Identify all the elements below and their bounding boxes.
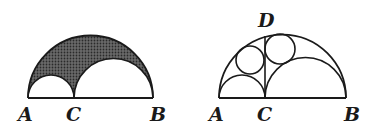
left-figure: A C B [16, 36, 166, 126]
right-figure: A C B D [207, 9, 360, 125]
label-b: B [343, 103, 360, 125]
small-semicircle-ac [219, 75, 265, 98]
inscribed-circle-right [265, 34, 295, 64]
label-a: A [207, 103, 224, 125]
label-a: A [16, 103, 33, 125]
label-c: C [257, 103, 272, 125]
label-d: D [257, 9, 275, 31]
label-b: B [149, 103, 166, 125]
label-c: C [66, 103, 81, 125]
diagram-canvas: A C B A C B D [0, 0, 376, 128]
inscribed-circle-left [236, 46, 264, 74]
